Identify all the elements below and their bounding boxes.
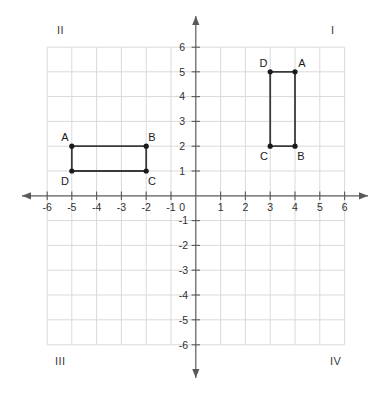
y-tick-label: -1: [179, 214, 188, 226]
vertex-label-c: C: [260, 150, 268, 162]
x-tick-label: 2: [242, 201, 248, 213]
x-tick-label: -2: [142, 201, 151, 213]
vertex-point-b: [292, 144, 297, 149]
vertex-point-c: [144, 168, 149, 173]
x-tick-label: 4: [292, 201, 298, 213]
y-tick-label: -5: [179, 314, 188, 326]
rectangle-left-outline: [72, 146, 146, 171]
arrow-right-icon: [359, 192, 368, 199]
vertex-label-d: D: [61, 175, 69, 187]
x-tick-label: -1: [166, 201, 175, 213]
axes: [22, 16, 368, 378]
coordinate-plane-svg: -6 -5 -4 -3 -2 -1 1 2 3 4 5 6 6 5 4 3 2 …: [0, 0, 391, 398]
x-tick-label: -4: [92, 201, 101, 213]
y-tick-label: 4: [179, 90, 185, 102]
y-tick-label: 3: [179, 115, 185, 127]
vertex-label-b: B: [297, 150, 304, 162]
vertex-label-b: B: [148, 131, 155, 143]
vertex-label-c: C: [148, 175, 156, 187]
vertex-point-a: [292, 69, 297, 74]
arrow-up-icon: [192, 16, 199, 25]
origin-label: 0: [179, 201, 185, 213]
vertex-label-d: D: [260, 57, 268, 69]
quadrant-label-iii: III: [55, 355, 66, 367]
y-tick-label: -3: [179, 264, 188, 276]
rectangle-left: A B C D: [61, 131, 156, 187]
y-tick-label: -4: [179, 289, 188, 301]
vertex-point-d: [69, 168, 74, 173]
vertex-point-d: [268, 69, 273, 74]
x-tick-label: -5: [67, 201, 76, 213]
x-tick-label: -6: [43, 201, 52, 213]
x-tick-label: -3: [117, 201, 126, 213]
y-tick-label: 5: [179, 66, 185, 78]
coordinate-plane: -6 -5 -4 -3 -2 -1 1 2 3 4 5 6 6 5 4 3 2 …: [0, 0, 391, 398]
x-tick-label: 1: [218, 201, 224, 213]
vertex-label-a: A: [61, 131, 69, 143]
y-tick-label: 6: [179, 41, 185, 53]
arrow-down-icon: [192, 369, 199, 378]
axis-arrowheads: [22, 16, 368, 378]
rectangle-right-outline: [270, 72, 295, 146]
y-tick-label: -6: [179, 339, 188, 351]
y-tick-label: -2: [179, 239, 188, 251]
arrow-left-icon: [22, 192, 31, 199]
vertex-point-a: [69, 144, 74, 149]
quadrant-label-i: I: [331, 24, 335, 36]
quadrant-label-ii: II: [57, 24, 64, 36]
quadrant-label-iv: IV: [330, 355, 341, 367]
vertex-label-a: A: [298, 57, 306, 69]
y-tick-label: 2: [179, 140, 185, 152]
x-tick-label: 3: [267, 201, 273, 213]
x-axis-tick-labels: -6 -5 -4 -3 -2 -1 1 2 3 4 5 6: [43, 201, 348, 213]
vertex-point-c: [268, 144, 273, 149]
vertex-point-b: [144, 144, 149, 149]
x-tick-label: 5: [317, 201, 323, 213]
y-tick-label: 1: [179, 165, 185, 177]
x-tick-label: 6: [342, 201, 348, 213]
